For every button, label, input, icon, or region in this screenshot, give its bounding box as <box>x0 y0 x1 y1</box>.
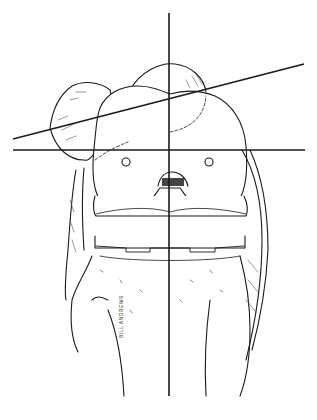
fibula <box>65 168 84 300</box>
knee-illustration: BILL ANDREWS <box>0 0 317 420</box>
poly-insert <box>93 196 247 216</box>
lateral-ligament <box>242 150 268 360</box>
tibia <box>71 256 250 396</box>
tibial-tray <box>95 236 245 248</box>
artist-signature: BILL ANDREWS <box>118 295 124 338</box>
femoral-component <box>93 86 247 210</box>
peg-hole-right <box>205 158 213 166</box>
knee-drawing <box>0 0 317 420</box>
peg-hole-left <box>122 158 130 166</box>
